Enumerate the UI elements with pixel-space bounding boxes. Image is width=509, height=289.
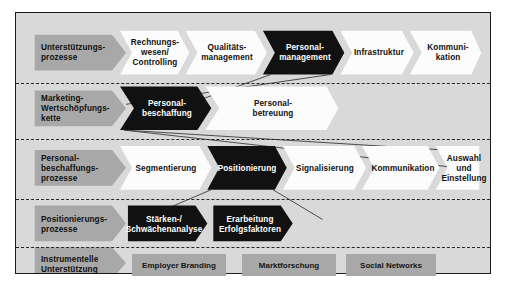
node-kommunikation-r3[interactable]: Kommunikation: [368, 147, 438, 191]
node-erarbeitung-erfolgsfaktoren[interactable]: ErarbeitungErfolgsfaktoren: [214, 207, 286, 243]
divider-2: [16, 139, 490, 140]
node-social-networks[interactable]: Social Networks: [346, 254, 436, 276]
row-label-instrumentelle-unterstuetzung: InstrumentelleUnterstützung: [34, 249, 126, 281]
diagram-frame: Unterstützungs-prozesse Rechnungs-wesen/…: [15, 12, 491, 274]
node-segmentierung[interactable]: Segmentierung: [126, 147, 206, 191]
node-qualitaetsmanagement[interactable]: Qualitäts-management: [192, 31, 262, 75]
row-label-marketing-wertschoepfungskette: Marketing-Wertschöpfungs-kette: [34, 91, 126, 127]
divider-1: [16, 83, 490, 84]
divider-3: [16, 199, 490, 200]
node-marktforschung[interactable]: Marktforschung: [242, 254, 336, 276]
node-staerken-schwaechenanalyse[interactable]: Stärken-/Schwächenanalyse: [128, 207, 200, 243]
divider-4: [16, 247, 490, 248]
row-label-personalbeschaffungsprozesse: Personal-beschaffungs-prozesse: [34, 151, 126, 187]
node-personalmanagement[interactable]: Personal-management: [270, 31, 340, 75]
node-personalbeschaffung[interactable]: Personal-beschaffung: [128, 87, 206, 131]
diagram-root: Unterstützungs-prozesse Rechnungs-wesen/…: [0, 0, 509, 289]
node-auswahl-und-einstellung[interactable]: Auswahl undEinstellung: [442, 147, 486, 191]
node-positionierung[interactable]: Positionierung: [212, 147, 282, 191]
node-rechnungswesen-controlling[interactable]: Rechnungs-wesen/Controlling: [126, 31, 184, 75]
node-infrastruktur[interactable]: Infrastruktur: [348, 31, 410, 75]
node-kommunikation[interactable]: Kommuni-kation: [418, 31, 478, 75]
node-personalbetreuung[interactable]: Personal-betreuung: [214, 87, 332, 131]
row-label-unterstuetzungsprozesse: Unterstützungs-prozesse: [34, 35, 126, 71]
row-label-positionierungsprozesse: Positionierungs-prozesse: [34, 207, 126, 243]
node-signalisierung[interactable]: Signalisierung: [288, 147, 362, 191]
node-employer-branding[interactable]: Employer Branding: [132, 254, 226, 276]
